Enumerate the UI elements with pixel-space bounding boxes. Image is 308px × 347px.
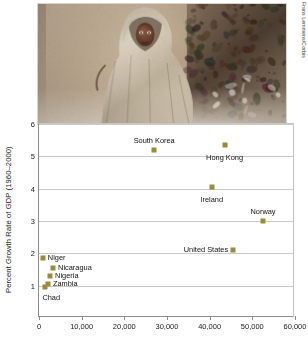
y-tick-label-3: 3	[31, 217, 35, 226]
y-tick-label-4: 4	[31, 184, 35, 193]
y-tick-label-2: 2	[31, 249, 35, 258]
photograph	[38, 4, 286, 124]
x-tick-mark-50000	[252, 316, 253, 320]
gdp-growth-figure: Frans Lemmens/Corbis Percent Growth Rate…	[0, 0, 308, 347]
x-tick-label-10000: 10,000	[70, 322, 93, 331]
data-label-zambia: Zambia	[53, 280, 78, 288]
data-point-nicaragua	[51, 265, 56, 270]
x-tick-label-40000: 40,000	[198, 322, 221, 331]
data-label-south-korea: South Korea	[134, 137, 175, 145]
x-tick-label-30000: 30,000	[156, 322, 179, 331]
gridline-y-4	[39, 189, 293, 190]
y-tick-label-1: 1	[31, 281, 35, 290]
y-axis-title: Percent Growth Rate of GDP (1960–2000)	[2, 123, 14, 317]
gridline-y-6	[39, 124, 293, 125]
x-tick-mark-20000	[124, 316, 125, 320]
x-tick-label-50000: 50,000	[241, 322, 264, 331]
photo-credit: Frans Lemmens/Corbis	[298, 2, 308, 94]
data-point-niger	[40, 256, 45, 261]
gridline-y-2	[39, 253, 293, 254]
x-tick-mark-0	[39, 316, 40, 320]
x-tick-mark-40000	[210, 316, 211, 320]
data-label-norway: Norway	[250, 208, 275, 216]
data-point-hong-kong	[222, 143, 227, 148]
data-point-chad	[43, 285, 48, 290]
x-tick-mark-10000	[82, 316, 83, 320]
gridline-y-5	[39, 156, 293, 157]
x-tick-label-60000: 60,000	[284, 322, 307, 331]
data-label-ireland: Ireland	[200, 196, 223, 204]
y-tick-label-6: 6	[31, 120, 35, 129]
x-tick-mark-60000	[295, 316, 296, 320]
data-point-ireland	[209, 185, 214, 190]
y-tick-label-5: 5	[31, 152, 35, 161]
data-label-hong-kong: Hong Kong	[206, 154, 243, 162]
x-tick-label-20000: 20,000	[113, 322, 136, 331]
data-point-norway	[261, 219, 266, 224]
scatter-plot-area: 123456 010,00020,00030,00040,00050,00060…	[38, 123, 294, 317]
data-label-united-states: United States	[184, 246, 228, 254]
x-tick-mark-30000	[167, 316, 168, 320]
data-point-nigeria	[48, 273, 53, 278]
photo-panel	[37, 3, 287, 125]
data-point-united-states	[231, 248, 236, 253]
data-point-south-korea	[152, 147, 157, 152]
x-tick-label-0: 0	[37, 322, 41, 331]
gridline-y-3	[39, 221, 293, 222]
data-label-niger: Niger	[48, 254, 66, 262]
data-label-chad: Chad	[42, 294, 60, 302]
